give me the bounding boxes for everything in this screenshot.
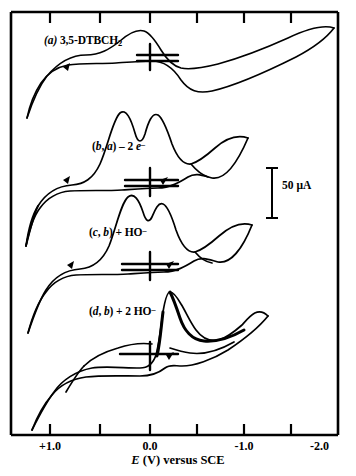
x-tick-label-1: 0.0 [122, 439, 178, 454]
curve-label-c: (c, b) + HO– [89, 226, 146, 238]
x-tick-label-2: -1.0 [216, 439, 272, 454]
zero-current-marker-b [125, 168, 178, 196]
curve-label-d-text: (d, b) + 2 HO– [89, 305, 155, 317]
top-ticks [50, 12, 291, 23]
x-tick-label-0: +1.0 [22, 439, 78, 454]
x-tick-label-3: -2.0 [310, 439, 356, 454]
zero-current-marker-a [137, 44, 178, 70]
x-axis-title: E (V) versus SCE [0, 453, 356, 468]
plot-canvas [0, 0, 356, 476]
cyclic-voltammogram-figure: (a) 3,5-DTBCH2 (b, a) – 2 e– (c, b) + HO… [0, 0, 356, 476]
curve-label-b-text: (b, a) – 2 e– [92, 140, 145, 152]
scale-bar-label: 50 μA [282, 179, 311, 191]
curve-label-c-text: (c, b) + HO– [89, 226, 146, 238]
curve-label-d: (d, b) + 2 HO– [89, 305, 155, 317]
curve-label-b: (b, a) – 2 e– [92, 140, 145, 152]
sweep-arrow [67, 261, 74, 269]
sweep-arrow [63, 63, 70, 71]
curve-label-a-text: (a) 3,5-DTBCH2 [44, 34, 122, 46]
sweep-arrow [63, 176, 70, 184]
x-axis-title-text: E (V) versus SCE [131, 453, 224, 467]
scale-bar [266, 168, 278, 218]
curve-label-a: (a) 3,5-DTBCH2 [44, 34, 122, 48]
bottom-ticks [50, 424, 291, 435]
